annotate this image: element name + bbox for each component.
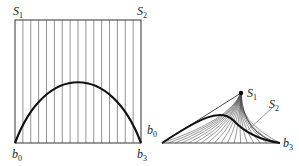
label-s2-right: S2	[269, 97, 279, 113]
label-s1-left: S1	[13, 4, 23, 20]
left-panel	[15, 20, 141, 143]
label-b0-right: b0	[147, 123, 157, 139]
fan-line	[241, 93, 261, 143]
label-s2-left: S2	[137, 4, 147, 20]
diagram-canvas: S1 S2 b0 b3 S1 S2 b0 b3	[0, 0, 299, 166]
s2-leader-line	[248, 108, 272, 130]
label-b3-left: b3	[137, 147, 147, 163]
right-panel	[162, 91, 280, 143]
label-s1-right: S1	[247, 86, 257, 102]
apex-point	[239, 91, 243, 95]
label-b0-left: b0	[12, 147, 22, 163]
fan-line	[241, 93, 254, 143]
label-b3-right: b3	[283, 136, 293, 152]
